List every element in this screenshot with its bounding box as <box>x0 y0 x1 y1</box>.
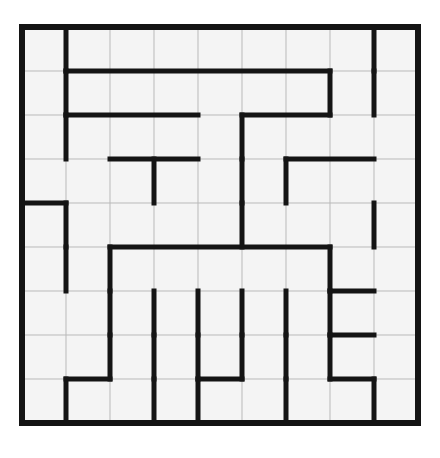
maze-cell[interactable] <box>242 291 286 335</box>
maze-cell[interactable] <box>330 203 374 247</box>
maze-cell[interactable] <box>330 247 374 291</box>
maze-cell[interactable] <box>66 115 110 159</box>
maze-cell[interactable] <box>286 27 330 71</box>
maze-cell[interactable] <box>110 291 154 335</box>
maze-cell[interactable] <box>286 159 330 203</box>
maze-cell[interactable] <box>110 159 154 203</box>
maze-cell[interactable] <box>154 291 198 335</box>
maze-cell[interactable] <box>286 335 330 379</box>
maze-cell[interactable] <box>198 247 242 291</box>
maze-canvas[interactable] <box>0 0 440 458</box>
maze-cell[interactable] <box>242 71 286 115</box>
maze-cell[interactable] <box>330 27 374 71</box>
maze-cell[interactable] <box>198 115 242 159</box>
maze-cell[interactable] <box>374 247 418 291</box>
maze-cell[interactable] <box>330 379 374 423</box>
maze-cell[interactable] <box>374 379 418 423</box>
maze-cell[interactable] <box>330 159 374 203</box>
maze-cell[interactable] <box>154 203 198 247</box>
maze-cell[interactable] <box>22 115 66 159</box>
maze-cell[interactable] <box>110 203 154 247</box>
maze-cell[interactable] <box>242 115 286 159</box>
maze-cell[interactable] <box>22 27 66 71</box>
maze-cell[interactable] <box>154 379 198 423</box>
maze-cell[interactable] <box>66 379 110 423</box>
maze-cell[interactable] <box>66 247 110 291</box>
maze-cell[interactable] <box>374 203 418 247</box>
maze-cell[interactable] <box>110 247 154 291</box>
maze-cell[interactable] <box>154 335 198 379</box>
maze-cell[interactable] <box>242 203 286 247</box>
maze-cell[interactable] <box>110 379 154 423</box>
maze-cell[interactable] <box>198 27 242 71</box>
maze-cell[interactable] <box>286 291 330 335</box>
maze-cell[interactable] <box>66 203 110 247</box>
maze-cell[interactable] <box>286 115 330 159</box>
maze-cell[interactable] <box>286 71 330 115</box>
maze-cell[interactable] <box>198 335 242 379</box>
maze-cell[interactable] <box>242 27 286 71</box>
maze-cell[interactable] <box>242 335 286 379</box>
maze-cell[interactable] <box>66 335 110 379</box>
maze-cell[interactable] <box>286 203 330 247</box>
maze-cell[interactable] <box>330 115 374 159</box>
maze-cell[interactable] <box>154 27 198 71</box>
maze-cell[interactable] <box>66 291 110 335</box>
maze-cell[interactable] <box>330 291 374 335</box>
maze-cell[interactable] <box>198 203 242 247</box>
maze-cell[interactable] <box>22 379 66 423</box>
maze-cell[interactable] <box>374 291 418 335</box>
maze-cell[interactable] <box>374 27 418 71</box>
maze-cell[interactable] <box>154 115 198 159</box>
maze-cell[interactable] <box>374 159 418 203</box>
maze-cell[interactable] <box>66 71 110 115</box>
maze-cell[interactable] <box>286 247 330 291</box>
maze-cell[interactable] <box>242 379 286 423</box>
maze-cell[interactable] <box>110 71 154 115</box>
maze-cell[interactable] <box>374 71 418 115</box>
maze-cell[interactable] <box>22 71 66 115</box>
maze-stage <box>0 0 440 458</box>
maze-cell[interactable] <box>374 335 418 379</box>
maze-cell[interactable] <box>154 159 198 203</box>
maze-cells-layer <box>22 27 418 423</box>
maze-cell[interactable] <box>22 203 66 247</box>
maze-cell[interactable] <box>110 115 154 159</box>
maze-cell[interactable] <box>286 379 330 423</box>
maze-cell[interactable] <box>242 159 286 203</box>
maze-cell[interactable] <box>242 247 286 291</box>
maze-cell[interactable] <box>374 115 418 159</box>
maze-cell[interactable] <box>66 27 110 71</box>
maze-cell[interactable] <box>110 27 154 71</box>
maze-cell[interactable] <box>330 335 374 379</box>
maze-cell[interactable] <box>66 159 110 203</box>
maze-cell[interactable] <box>22 291 66 335</box>
maze-cell[interactable] <box>198 291 242 335</box>
maze-cell[interactable] <box>22 335 66 379</box>
maze-cell[interactable] <box>198 159 242 203</box>
maze-cell[interactable] <box>110 335 154 379</box>
maze-cell[interactable] <box>22 247 66 291</box>
maze-cell[interactable] <box>154 71 198 115</box>
maze-cell[interactable] <box>330 71 374 115</box>
maze-cell[interactable] <box>198 379 242 423</box>
maze-cell[interactable] <box>154 247 198 291</box>
maze-cell[interactable] <box>198 71 242 115</box>
maze-cell[interactable] <box>22 159 66 203</box>
